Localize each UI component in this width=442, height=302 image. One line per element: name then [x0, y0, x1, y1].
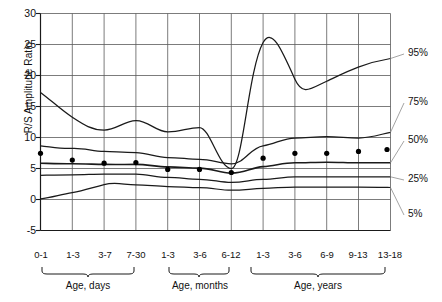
mean-point	[384, 147, 389, 152]
leader-line-50	[391, 141, 405, 163]
percentile-leader-lines	[391, 54, 405, 215]
plot-background	[41, 14, 391, 231]
percentile-label-50: 50%	[408, 135, 428, 145]
group-label-years: Age, years	[278, 281, 358, 291]
percentile-label-25: 25%	[408, 174, 428, 184]
group-brackets	[42, 267, 385, 277]
x-tick-label: 13-18	[364, 250, 416, 260]
mean-point	[38, 151, 43, 156]
group-label-days: Age, days	[48, 281, 128, 291]
percentile-label-95: 95%	[408, 48, 428, 58]
mean-point	[165, 167, 170, 172]
mean-point	[229, 170, 234, 175]
mean-point	[261, 156, 266, 161]
mean-point	[102, 161, 107, 166]
bracket-months	[169, 267, 229, 277]
mean-point	[324, 151, 329, 156]
group-label-months: Age, months	[158, 281, 242, 291]
leader-line-5	[391, 188, 405, 216]
bracket-days	[42, 267, 134, 277]
mean-point	[70, 158, 75, 163]
percentile-label-5: 5%	[408, 209, 422, 219]
y-axis-tick-marks	[36, 14, 41, 231]
mean-point	[197, 167, 202, 172]
chart-container: R/S Amplitude Ratio 30 25 20 15 10 5 0 -…	[0, 0, 442, 302]
mean-point	[356, 149, 361, 154]
leader-line-75	[391, 103, 405, 132]
percentile-label-75: 75%	[408, 97, 428, 107]
mean-point	[133, 160, 138, 165]
leader-line-95	[391, 54, 405, 59]
leader-line-25	[391, 177, 405, 180]
mean-point	[292, 151, 297, 156]
bracket-years	[251, 267, 385, 277]
